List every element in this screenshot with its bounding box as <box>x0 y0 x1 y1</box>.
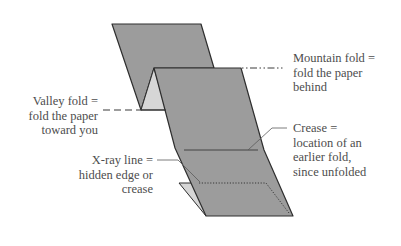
crease-label-line-1: Crease = <box>293 121 366 136</box>
valley-fold-label-line-3: toward you <box>29 123 98 138</box>
crease-label-line-4: since unfolded <box>293 165 366 180</box>
front-paper-panel <box>154 68 293 216</box>
mountain-fold-label-line-2: fold the paper <box>293 66 375 81</box>
valley-fold-label-line-2: fold the paper <box>29 109 98 124</box>
crease-label: Crease = location of an earlier fold, si… <box>293 121 366 179</box>
valley-fold-label: Valley fold = fold the paper toward you <box>29 94 98 138</box>
mountain-fold-label: Mountain fold = fold the paper behind <box>293 51 375 95</box>
mountain-fold-label-line-1: Mountain fold = <box>293 51 375 66</box>
crease-label-line-2: location of an <box>293 136 366 151</box>
xray-label-line-3: crease <box>79 182 153 197</box>
xray-label-line-1: X-ray line = <box>79 153 153 168</box>
mountain-fold-label-line-3: behind <box>293 80 375 95</box>
valley-fold-label-line-1: Valley fold = <box>29 94 98 109</box>
xray-label-line-2: hidden edge or <box>79 168 153 183</box>
xray-line-label: X-ray line = hidden edge or crease <box>79 153 153 197</box>
crease-label-line-3: earlier fold, <box>293 150 366 165</box>
